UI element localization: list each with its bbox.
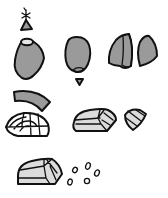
small-wedge (21, 20, 32, 30)
split-shard-right (138, 36, 157, 66)
tiny-triangle (76, 79, 83, 85)
arc-segment (14, 91, 50, 111)
faceted-block (73, 109, 116, 131)
star-sprout (22, 8, 30, 20)
illustration-canvas (0, 0, 168, 198)
granules (67, 162, 100, 185)
bottom-faceted-block (18, 159, 62, 184)
oval-pebble (65, 37, 90, 72)
large-pebble (15, 39, 44, 79)
faceted-dome (6, 113, 49, 136)
small-faceted-piece (125, 110, 146, 130)
split-shard-left (109, 34, 132, 68)
